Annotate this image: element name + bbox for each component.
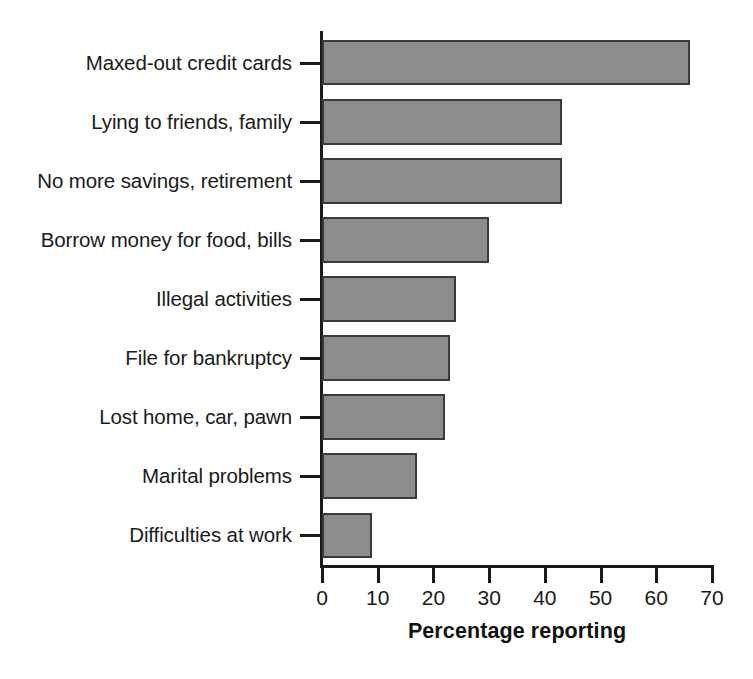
y-axis-tick bbox=[300, 475, 320, 478]
x-axis-tick-label: 20 bbox=[422, 586, 445, 610]
bar-row: No more savings, retirement bbox=[322, 158, 712, 204]
y-axis-tick bbox=[300, 534, 320, 537]
bar-row: Lost home, car, pawn bbox=[322, 394, 712, 440]
x-axis-tick bbox=[377, 568, 380, 583]
bar bbox=[322, 217, 489, 263]
x-axis-tick-label: 30 bbox=[477, 586, 500, 610]
y-axis-tick bbox=[300, 298, 320, 301]
category-label: Difficulties at work bbox=[129, 523, 292, 547]
category-label: Lying to friends, family bbox=[91, 110, 292, 134]
y-axis-tick bbox=[300, 180, 320, 183]
y-axis-tick bbox=[300, 416, 320, 419]
x-axis-tick bbox=[655, 568, 658, 583]
category-label: Lost home, car, pawn bbox=[99, 405, 292, 429]
bar bbox=[322, 276, 456, 322]
bar bbox=[322, 453, 417, 499]
category-label: Marital problems bbox=[142, 464, 292, 488]
plot-area: Maxed-out credit cardsLying to friends, … bbox=[322, 33, 712, 565]
category-label: Illegal activities bbox=[156, 287, 292, 311]
x-axis-tick-label: 70 bbox=[700, 586, 723, 610]
category-label: No more savings, retirement bbox=[37, 169, 292, 193]
x-axis-tick bbox=[544, 568, 547, 583]
bar-row: Lying to friends, family bbox=[322, 99, 712, 145]
x-axis-tick-label: 60 bbox=[645, 586, 668, 610]
bar-row: Difficulties at work bbox=[322, 513, 712, 559]
category-label: Borrow money for food, bills bbox=[41, 228, 292, 252]
bar-row: File for bankruptcy bbox=[322, 335, 712, 381]
x-axis-tick-label: 10 bbox=[366, 586, 389, 610]
x-axis-tick bbox=[600, 568, 603, 583]
x-axis-tick bbox=[321, 568, 324, 583]
y-axis-tick bbox=[300, 121, 320, 124]
bar-row: Marital problems bbox=[322, 453, 712, 499]
bar-row: Maxed-out credit cards bbox=[322, 40, 712, 86]
bar bbox=[322, 40, 690, 86]
bar bbox=[322, 513, 372, 559]
x-axis-tick-label: 50 bbox=[589, 586, 612, 610]
x-axis-tick bbox=[711, 568, 714, 583]
bar bbox=[322, 158, 562, 204]
bar-chart-figure: Maxed-out credit cardsLying to friends, … bbox=[0, 0, 753, 679]
x-axis-tick bbox=[432, 568, 435, 583]
x-axis-tick-label: 0 bbox=[316, 586, 328, 610]
x-axis-tick-label: 40 bbox=[533, 586, 556, 610]
category-label: Maxed-out credit cards bbox=[86, 51, 292, 75]
y-axis-tick bbox=[300, 239, 320, 242]
category-label: File for bankruptcy bbox=[125, 346, 292, 370]
y-axis-tick bbox=[300, 357, 320, 360]
bar bbox=[322, 394, 445, 440]
bar bbox=[322, 99, 562, 145]
bar-row: Illegal activities bbox=[322, 276, 712, 322]
y-axis-tick bbox=[300, 62, 320, 65]
x-axis-title: Percentage reporting bbox=[322, 619, 712, 644]
x-axis-tick bbox=[488, 568, 491, 583]
bar-row: Borrow money for food, bills bbox=[322, 217, 712, 263]
bar bbox=[322, 335, 450, 381]
